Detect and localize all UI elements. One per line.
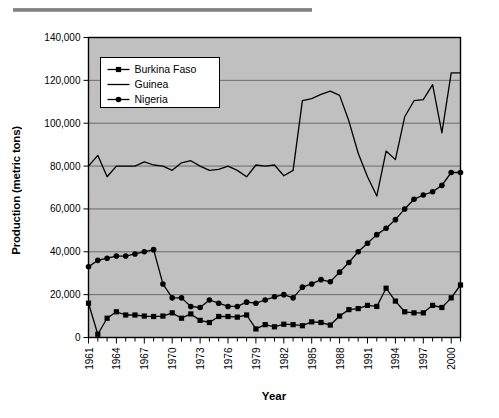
data-point-marker: [411, 310, 416, 315]
data-point-marker: [235, 315, 240, 320]
data-point-marker: [374, 232, 380, 238]
data-point-marker: [430, 303, 435, 308]
x-tick-label: 1970: [167, 347, 178, 370]
data-point-marker: [123, 312, 128, 317]
data-point-marker: [439, 305, 444, 310]
data-point-marker: [281, 292, 287, 298]
data-point-marker: [104, 255, 110, 261]
data-point-marker: [170, 310, 175, 315]
x-tick-label: 1985: [307, 347, 318, 370]
data-point-marker: [365, 240, 371, 246]
x-tick-label: 1994: [390, 347, 401, 370]
legend-label: Guinea: [135, 78, 169, 90]
data-point-marker: [402, 206, 408, 212]
x-tick-label: 1961: [84, 347, 95, 370]
data-point-marker: [132, 251, 138, 257]
data-point-marker: [393, 298, 398, 303]
data-point-marker: [309, 281, 315, 287]
data-point-marker: [272, 294, 278, 300]
data-point-marker: [365, 303, 370, 308]
data-point-marker: [281, 322, 286, 327]
x-tick-label: 1979: [251, 347, 262, 370]
data-point-marker: [105, 316, 110, 321]
data-point-marker: [132, 312, 137, 317]
data-point-marker: [123, 253, 129, 259]
data-point-marker: [402, 309, 407, 314]
legend-label: Nigeria: [135, 93, 168, 105]
data-point-marker: [411, 196, 417, 202]
data-point-marker: [142, 249, 148, 255]
legend-label: Burkina Faso: [135, 63, 197, 75]
x-tick-label: 1982: [279, 347, 290, 370]
data-point-marker: [291, 322, 296, 327]
data-point-marker: [151, 314, 156, 319]
data-point-marker: [188, 304, 194, 310]
data-point-marker: [235, 304, 241, 310]
data-point-marker: [318, 320, 323, 325]
x-tick-label: 2000: [446, 347, 457, 370]
data-point-marker: [160, 281, 166, 287]
data-point-marker: [449, 295, 454, 300]
legend-sample-marker: [116, 67, 121, 72]
data-point-marker: [290, 295, 296, 301]
data-point-marker: [253, 300, 259, 306]
x-tick-label: 1976: [223, 347, 234, 370]
x-tick-label: 1988: [335, 347, 346, 370]
y-tick-label: 120,000: [44, 75, 81, 86]
data-point-marker: [318, 277, 324, 283]
data-point-marker: [244, 312, 249, 317]
data-point-marker: [448, 170, 454, 176]
x-tick-label: 1967: [139, 347, 150, 370]
data-point-marker: [374, 304, 379, 309]
legend-sample-marker: [116, 97, 122, 103]
data-point-marker: [225, 304, 231, 310]
data-point-marker: [160, 313, 165, 318]
y-tick-label: 100,000: [44, 118, 81, 129]
data-point-marker: [179, 316, 184, 321]
data-point-marker: [300, 323, 305, 328]
x-tick-label: 1997: [418, 347, 429, 370]
plot-canvas: 020,00040,00060,00080,000100,000120,0001…: [0, 0, 499, 418]
data-point-marker: [179, 295, 185, 301]
data-point-marker: [263, 322, 268, 327]
data-point-marker: [188, 311, 193, 316]
data-point-marker: [337, 269, 343, 275]
y-tick-label: 60,000: [50, 203, 81, 214]
data-point-marker: [300, 284, 306, 290]
data-point-marker: [151, 247, 157, 253]
data-point-marker: [272, 324, 277, 329]
data-point-marker: [142, 313, 147, 318]
data-point-marker: [253, 326, 258, 331]
data-point-marker: [114, 253, 120, 259]
data-point-marker: [169, 295, 175, 301]
data-point-marker: [95, 258, 101, 264]
data-point-marker: [197, 305, 203, 311]
x-tick-label: 1964: [111, 347, 122, 370]
data-point-marker: [328, 322, 333, 327]
data-point-marker: [309, 319, 314, 324]
y-tick-label: 140,000: [44, 32, 81, 43]
data-point-marker: [337, 313, 342, 318]
data-point-marker: [114, 309, 119, 314]
y-tick-label: 40,000: [50, 246, 81, 257]
data-point-marker: [198, 318, 203, 323]
x-tick-label: 1991: [363, 347, 374, 370]
data-point-marker: [225, 314, 230, 319]
data-point-marker: [95, 332, 100, 337]
data-point-marker: [421, 192, 427, 198]
data-point-marker: [356, 306, 361, 311]
data-point-marker: [216, 314, 221, 319]
data-point-marker: [262, 297, 268, 303]
legend: Burkina FasoGuineaNigeria: [101, 58, 220, 108]
data-point-marker: [355, 249, 361, 255]
production-line-chart: Production (metric tons) Year 020,00040,…: [0, 0, 499, 418]
data-point-marker: [393, 217, 399, 223]
data-point-marker: [207, 297, 213, 303]
data-point-marker: [439, 183, 445, 189]
y-tick-label: 80,000: [50, 161, 81, 172]
y-tick-label: 0: [75, 332, 81, 343]
data-point-marker: [421, 310, 426, 315]
data-point-marker: [328, 279, 334, 285]
data-point-marker: [384, 286, 389, 291]
y-tick-label: 20,000: [50, 289, 81, 300]
